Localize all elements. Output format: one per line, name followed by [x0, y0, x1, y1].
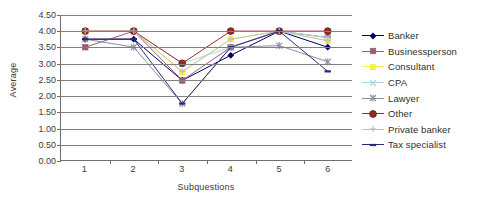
y-tick-label: 2.00 — [20, 91, 56, 101]
y-tick-mark — [57, 112, 61, 113]
x-tick-label: 5 — [264, 164, 294, 174]
plot-area — [60, 15, 352, 161]
diamond-marker — [227, 52, 234, 59]
gridline — [61, 15, 352, 16]
chart-container: Average 0.000.501.001.502.002.503.003.50… — [0, 0, 479, 219]
x-axis-title: Subquestions — [60, 182, 352, 192]
legend-square-icon — [362, 45, 384, 57]
series-line — [85, 31, 328, 71]
y-tick-mark — [57, 129, 61, 130]
dash-marker — [325, 70, 331, 72]
y-axis-title-text: Average — [8, 63, 18, 98]
gridline — [61, 64, 352, 65]
legend-label: Businessperson — [388, 46, 457, 57]
x-tick-label: 6 — [313, 164, 343, 174]
y-tick-mark — [57, 145, 61, 146]
diamond-marker — [370, 32, 377, 39]
y-tick-label: 1.50 — [20, 107, 56, 117]
x-tick-label: 1 — [69, 164, 99, 174]
y-tick-mark — [57, 96, 61, 97]
y-tick-label: 4.00 — [20, 26, 56, 36]
chart-legend: BankerBusinesspersonConsultantCPALawyerO… — [362, 28, 477, 153]
legend-label: CPA — [388, 77, 407, 88]
y-axis-title: Average — [6, 0, 20, 160]
y-tick-label: 1.00 — [20, 124, 56, 134]
y-tick-mark — [57, 47, 61, 48]
gridline — [61, 112, 352, 113]
legend-label: Consultant — [388, 61, 434, 72]
y-tick-label: 3.00 — [20, 59, 56, 69]
cross-marker — [370, 80, 376, 86]
y-tick-label: 3.50 — [20, 42, 56, 52]
y-tick-label: 2.50 — [20, 75, 56, 85]
legend-cross-icon — [362, 77, 384, 89]
legend-label: Private banker — [388, 124, 451, 135]
y-tick-label: 0.50 — [20, 140, 56, 150]
series-line — [85, 39, 328, 103]
legend-item-private-banker[interactable]: Private banker — [362, 122, 477, 138]
y-tick-mark — [57, 31, 61, 32]
dash-marker — [131, 38, 137, 40]
star-marker — [370, 95, 376, 102]
gridline — [61, 47, 352, 48]
legend-plus-icon — [362, 123, 384, 135]
legend-item-other[interactable]: Other — [362, 106, 477, 122]
dash-marker — [370, 144, 376, 146]
legend-label: Other — [388, 108, 412, 119]
x-axis-tick-labels: 123456 — [60, 164, 352, 178]
square-marker — [370, 64, 376, 70]
legend-square-icon — [362, 61, 384, 73]
plus-marker — [370, 126, 376, 132]
legend-item-tax-specialist[interactable]: Tax specialist — [362, 137, 477, 153]
x-tick-label: 2 — [118, 164, 148, 174]
square-marker — [370, 49, 376, 55]
legend-star-icon — [362, 92, 384, 104]
y-tick-mark — [57, 64, 61, 65]
y-tick-label: 4.50 — [20, 10, 56, 20]
legend-item-lawyer[interactable]: Lawyer — [362, 90, 477, 106]
gridline — [61, 31, 352, 32]
y-tick-label: 0.00 — [20, 156, 56, 166]
gridline — [61, 129, 352, 130]
legend-item-cpa[interactable]: CPA — [362, 75, 477, 91]
gridline — [61, 96, 352, 97]
legend-circle-icon — [362, 108, 384, 120]
gridline — [61, 145, 352, 146]
gridline — [61, 80, 352, 81]
y-tick-mark — [57, 15, 61, 16]
y-tick-mark — [57, 80, 61, 81]
series-layer — [61, 15, 352, 160]
dash-marker — [179, 103, 185, 105]
x-tick-label: 4 — [215, 164, 245, 174]
legend-dash-icon — [362, 139, 384, 151]
legend-label: Tax specialist — [388, 139, 446, 150]
y-axis-tick-labels: 0.000.501.001.502.002.503.003.504.004.50 — [20, 15, 56, 161]
circle-marker — [370, 110, 377, 117]
legend-label: Lawyer — [388, 93, 419, 104]
x-tick-label: 3 — [167, 164, 197, 174]
y-tick-mark — [57, 161, 61, 162]
legend-item-banker[interactable]: Banker — [362, 28, 477, 44]
legend-label: Banker — [388, 30, 419, 41]
legend-item-consultant[interactable]: Consultant — [362, 59, 477, 75]
series-line — [85, 31, 328, 72]
legend-diamond-icon — [362, 30, 384, 42]
legend-item-businessperson[interactable]: Businessperson — [362, 44, 477, 60]
dash-marker — [82, 38, 88, 40]
